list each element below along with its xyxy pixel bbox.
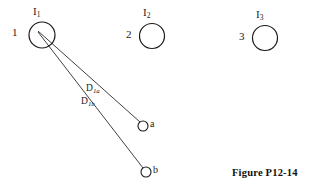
conductor-circle-2: [140, 24, 165, 49]
field-point-label-a: a: [150, 119, 154, 129]
field-point-label-b: b: [153, 165, 158, 175]
distance-symbol-d1b: D: [81, 96, 88, 106]
conductor-number-2: 2: [126, 29, 132, 40]
distance-label-d1a: D1a: [86, 84, 100, 94]
current-label-1: I1: [33, 6, 40, 18]
figure-caption: Figure P12-14: [232, 167, 298, 178]
conductor-circle-3: [253, 26, 278, 51]
current-label-2: I2: [143, 7, 150, 19]
figure-container: I1 I2 I3 1 2 3 D1a D1b a b Figure P12-14: [0, 0, 314, 194]
current-subscript-1: 1: [37, 10, 41, 19]
conductor-number-1: 1: [12, 27, 18, 38]
distance-symbol-d1a: D: [86, 83, 93, 93]
current-subscript-3: 3: [260, 13, 264, 22]
distance-subscript-d1b: 1b: [88, 100, 95, 107]
distance-line-d1a: [38, 31, 140, 122]
field-point-circle-a: [138, 121, 148, 131]
current-subscript-2: 2: [147, 11, 151, 20]
field-point-circle-b: [141, 167, 151, 177]
distance-label-d1b: D1b: [81, 97, 95, 107]
conductor-number-3: 3: [239, 31, 245, 42]
distance-subscript-d1a: 1a: [93, 87, 100, 94]
current-label-3: I3: [256, 9, 263, 21]
